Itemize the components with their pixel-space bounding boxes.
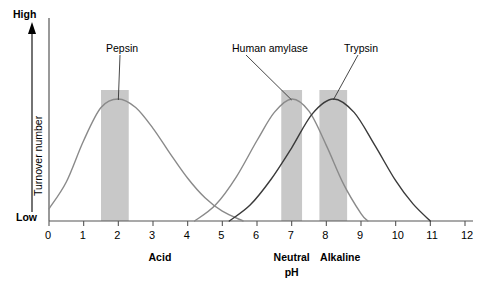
x-axis-tick-label: 0 [45,229,51,241]
optimum-band [101,90,129,221]
x-axis-tick-label: 2 [114,229,120,241]
y-axis-arrowhead [28,22,36,34]
series-label: Human amylase [232,42,308,54]
optimum-band [319,90,347,221]
x-axis-tick-label: 9 [357,229,363,241]
series-curve [49,99,243,221]
zone-label: Alkaline [320,251,360,263]
series-label: Pepsin [106,42,138,54]
x-axis-tick-label: 5 [218,229,224,241]
x-axis-tick-label: 7 [288,229,294,241]
x-axis-tick-label: 3 [149,229,155,241]
optimum-band [281,90,302,221]
x-axis-tick-label: 10 [392,229,404,241]
annotation-leader-line [246,55,292,100]
zone-label: Acid [149,251,172,263]
series-label: Trypsin [344,42,378,54]
y-axis-title: Turnover number [32,116,44,196]
zone-label: Neutral [274,251,310,263]
y-axis-high-label: High [13,8,36,20]
x-axis-tick-label: 1 [80,229,86,241]
x-axis-tick-label: 4 [184,229,190,241]
x-axis-tick-label: 6 [253,229,259,241]
zone-label: pH [285,266,299,278]
x-axis-tick-label: 12 [461,229,473,241]
x-axis-tick-label: 8 [322,229,328,241]
x-axis-tick-label: 11 [426,229,437,241]
y-axis-low-label: Low [16,211,37,223]
enzyme-ph-activity-chart: High Low Turnover number 012345678910111… [0,0,492,291]
